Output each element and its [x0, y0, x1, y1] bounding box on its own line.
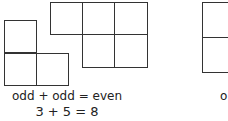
caption-rule: odd + odd = even: [0, 89, 134, 103]
square: [50, 2, 83, 35]
square: [114, 34, 148, 68]
square: [82, 34, 115, 68]
square: [82, 2, 115, 35]
square: [202, 37, 228, 73]
caption-partial: o: [220, 89, 227, 103]
square: [114, 2, 148, 35]
square: [4, 53, 37, 86]
square: [36, 53, 69, 86]
caption-example: 3 + 5 = 8: [0, 104, 134, 119]
square: [202, 2, 228, 38]
square: [4, 20, 37, 53]
